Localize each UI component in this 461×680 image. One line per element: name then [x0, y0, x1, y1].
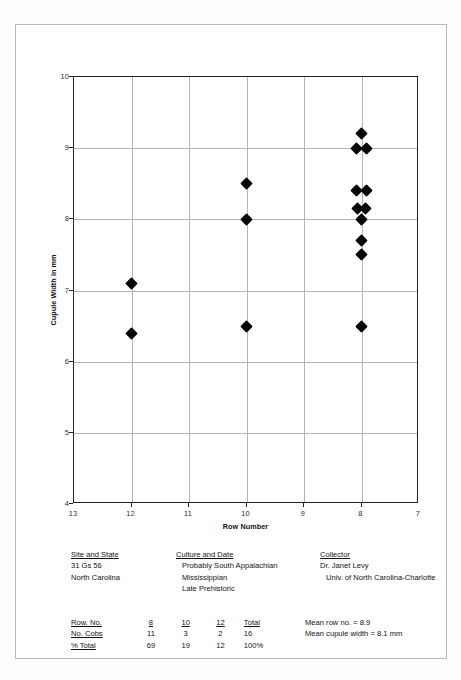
scatter-plot: Cupule Width in mm Row Number 4567891013… — [73, 76, 418, 503]
data-point — [355, 128, 368, 141]
x-axis-tick-12: 12 — [116, 509, 146, 518]
y-tick-mark — [69, 76, 73, 77]
gridline-vertical — [247, 77, 248, 502]
x-tick-mark — [188, 503, 189, 507]
cob-counts-table: Row. No. 8 10 12 Total No. Cobs 11 3 2 1… — [71, 617, 283, 651]
y-axis-tick-4: 4 — [29, 499, 69, 508]
site-and-state-header: Site and State — [71, 549, 176, 560]
x-tick-mark — [131, 503, 132, 507]
table-row: No. Cobs 11 3 2 16 — [71, 628, 283, 639]
gridline-vertical — [362, 77, 363, 502]
no-cobs-value-3: 2 — [203, 628, 238, 639]
data-point — [125, 327, 138, 340]
document-page: Cupule Width in mm Row Number 4567891013… — [0, 0, 461, 680]
y-tick-mark — [69, 290, 73, 291]
collector-affiliation: Univ. of North Carolina-Charlotte — [320, 572, 436, 583]
row-no-total: Total — [238, 617, 283, 628]
culture-and-date-column: Culture and Date Probably South Appalach… — [176, 549, 320, 595]
x-tick-mark — [361, 503, 362, 507]
y-axis-tick-8: 8 — [29, 214, 69, 223]
collector-column: Collector Dr. Janet Levy Univ. of North … — [320, 549, 436, 595]
x-axis-tick-9: 9 — [288, 509, 318, 518]
data-point — [240, 177, 253, 190]
gridline-horizontal — [74, 362, 417, 363]
x-axis-label: Row Number — [73, 522, 418, 531]
x-axis-tick-8: 8 — [346, 509, 376, 518]
percent-total-value-1: 69 — [134, 640, 169, 651]
x-axis-tick-10: 10 — [231, 509, 261, 518]
row-no-value-2: 10 — [168, 617, 203, 628]
y-tick-mark — [69, 218, 73, 219]
no-cobs-value-1: 11 — [134, 628, 169, 639]
y-axis-tick-7: 7 — [29, 285, 69, 294]
culture-and-date-header: Culture and Date — [176, 549, 320, 560]
culture-line-3: Late Prehistoric — [176, 583, 320, 594]
percent-total-label: % Total — [71, 640, 134, 651]
gridline-vertical — [189, 77, 190, 502]
table-row: % Total 69 19 12 100% — [71, 640, 283, 651]
gridline-vertical — [304, 77, 305, 502]
percent-total-value-2: 19 — [168, 640, 203, 651]
y-axis-tick-10: 10 — [29, 72, 69, 81]
percent-total-value-3: 12 — [203, 640, 238, 651]
x-axis-tick-11: 11 — [173, 509, 203, 518]
x-tick-mark — [246, 503, 247, 507]
collector-header: Collector — [320, 549, 436, 560]
document-frame: Cupule Width in mm Row Number 4567891013… — [15, 24, 447, 659]
no-cobs-label: No. Cobs — [71, 628, 134, 639]
y-axis-tick-9: 9 — [29, 143, 69, 152]
data-point — [240, 320, 253, 333]
no-cobs-value-2: 3 — [168, 628, 203, 639]
y-tick-mark — [69, 432, 73, 433]
plot-area — [73, 76, 418, 503]
collector-name: Dr. Janet Levy — [320, 560, 436, 571]
culture-line-2: Mississippian — [176, 572, 320, 583]
table-row: Row. No. 8 10 12 Total — [71, 617, 283, 628]
x-axis-tick-13: 13 — [58, 509, 88, 518]
data-point — [355, 249, 368, 262]
gridline-horizontal — [74, 291, 417, 292]
x-axis-tick-7: 7 — [403, 509, 433, 518]
row-no-value-1: 8 — [134, 617, 169, 628]
data-point — [125, 277, 138, 290]
site-and-state-column: Site and State 31 Gs 56 North Carolina — [71, 549, 176, 595]
y-axis-tick-6: 6 — [29, 356, 69, 365]
percent-total-total: 100% — [238, 640, 283, 651]
y-tick-mark — [69, 147, 73, 148]
site-info-block: Site and State 31 Gs 56 North Carolina C… — [71, 549, 449, 595]
mean-row-number: Mean row no. = 8.9 — [305, 617, 402, 628]
mean-cupule-width: Mean cupule width = 8.1 mm — [305, 628, 402, 639]
site-state: North Carolina — [71, 572, 176, 583]
data-point — [355, 234, 368, 247]
site-code: 31 Gs 56 — [71, 560, 176, 571]
row-no-label: Row. No. — [71, 617, 134, 628]
gridline-horizontal — [74, 433, 417, 434]
data-point — [240, 213, 253, 226]
row-no-value-3: 12 — [203, 617, 238, 628]
y-tick-mark — [69, 361, 73, 362]
summary-block: Row. No. 8 10 12 Total No. Cobs 11 3 2 1… — [71, 617, 449, 651]
y-tick-mark — [69, 503, 73, 504]
x-tick-mark — [303, 503, 304, 507]
no-cobs-total: 16 — [238, 628, 283, 639]
means-block: Mean row no. = 8.9 Mean cupule width = 8… — [283, 617, 402, 651]
data-point — [355, 320, 368, 333]
culture-line-1: Probably South Appalachian — [176, 560, 320, 571]
y-axis-tick-5: 5 — [29, 427, 69, 436]
